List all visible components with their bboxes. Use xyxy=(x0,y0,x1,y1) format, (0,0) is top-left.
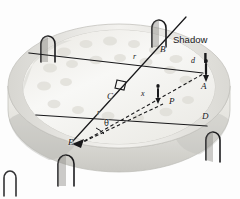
point-label-C: C xyxy=(107,92,113,101)
point-label-E: E xyxy=(68,138,74,147)
niche-arch-far-left xyxy=(4,171,16,196)
segment-label-x: x xyxy=(141,90,145,98)
segment-label-d: d xyxy=(191,57,195,65)
point-label-B: B xyxy=(160,45,166,54)
point-label-D: D xyxy=(202,112,209,121)
point-label-A: A xyxy=(201,82,207,91)
segment-label-r-top: r xyxy=(133,53,136,61)
angle-label-theta: θ xyxy=(104,120,109,128)
shadow-marker-bar xyxy=(204,53,206,63)
arena-floor xyxy=(23,30,215,144)
figure-root: A B C D E P r r x d θ Shadow xyxy=(0,0,240,199)
point-label-P: P xyxy=(169,97,175,106)
arena-diagram xyxy=(0,0,240,199)
segment-label-r-left: r xyxy=(97,109,100,117)
shadow-annotation: Shadow xyxy=(173,35,207,45)
